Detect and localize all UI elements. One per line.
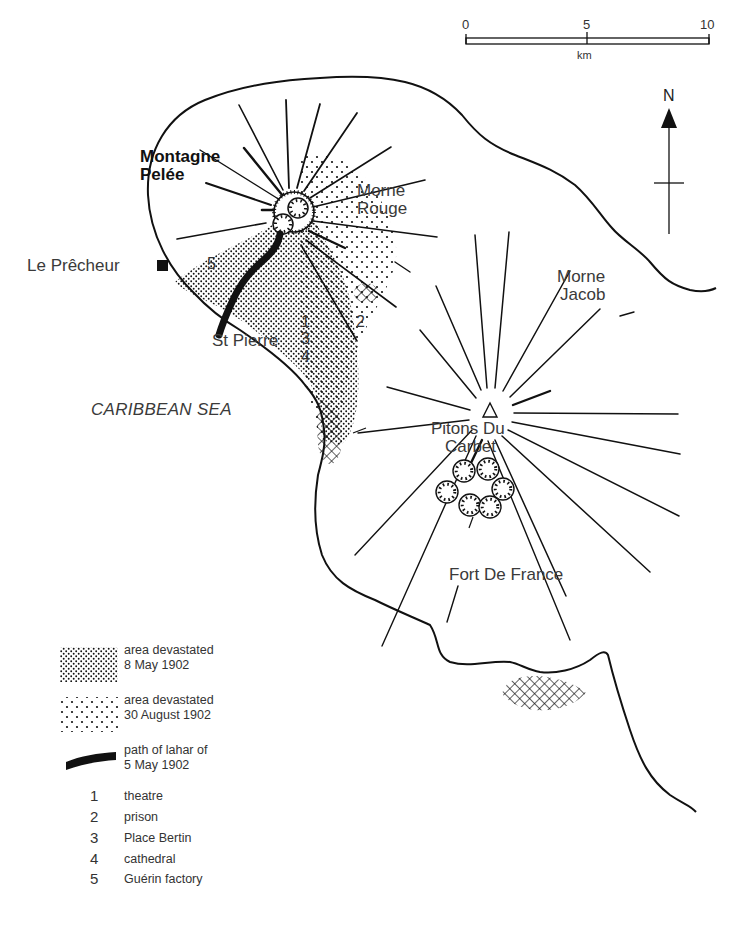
label-morne-rouge-line2: Rouge	[357, 200, 407, 218]
legend-lahar-line1: path of lahar of	[124, 744, 207, 758]
le-precheur-marker-icon	[157, 260, 168, 271]
label-morne-jacob-line1: Morne	[557, 268, 605, 286]
label-morne-jacob-line2: Jacob	[560, 286, 605, 304]
north-arrow-icon	[654, 108, 684, 234]
label-montagne-pelee-line1: Montagne	[140, 148, 220, 166]
legend-key-num-3: 3	[90, 829, 98, 846]
pitons-leader-line	[469, 517, 473, 528]
legend-key-num-1: 1	[90, 787, 98, 804]
legend-key-label-guerin-factory: Guérin factory	[124, 872, 203, 886]
legend-swatch-lahar-line	[66, 752, 116, 770]
legend-key-num-5: 5	[90, 870, 98, 887]
scale-bar	[466, 32, 709, 44]
legend-key-label-cathedral: cathedral	[124, 852, 175, 866]
map-marker-5-guerin-factory: 5	[207, 256, 216, 273]
scale-tick-10: 10	[700, 18, 714, 32]
scale-unit: km	[577, 50, 592, 62]
scale-tick-0: 0	[462, 18, 469, 32]
morne-jacob-summit-triangle-icon	[483, 403, 497, 417]
legend-swatch-dense-dots	[60, 647, 118, 682]
label-montagne-pelee-line2: Pelée	[140, 166, 184, 184]
legend-dense-dots-line1: area devastated	[124, 644, 214, 658]
legend-key-label-prison: prison	[124, 810, 158, 824]
legend-key-num-2: 2	[90, 808, 98, 825]
scale-tick-5: 5	[583, 18, 590, 32]
legend-key-label-theatre: theatre	[124, 789, 163, 803]
map-marker-1-theatre: 1	[301, 314, 310, 331]
legend-sparse-dots-line2: 30 August 1902	[124, 709, 211, 723]
legend-key-num-4: 4	[90, 850, 98, 867]
map-marker-4-cathedral: 4	[301, 349, 310, 366]
legend-lahar-line2: 5 May 1902	[124, 759, 189, 773]
label-st-pierre: St Pierre	[212, 332, 278, 350]
map-marker-2-prison: 2	[356, 314, 365, 331]
legend-sparse-dots-line1: area devastated	[124, 694, 214, 708]
label-pitons-du-carbet-line2: Carbet	[445, 438, 496, 456]
label-le-precheur: Le Prêcheur	[27, 257, 120, 275]
label-pitons-du-carbet-line1: Pitons Du	[431, 420, 505, 438]
label-fort-de-france: Fort De France	[449, 566, 563, 584]
map-canvas	[0, 0, 736, 943]
label-morne-rouge-line1: Morne	[357, 182, 405, 200]
map-marker-3-place-bertin: 3	[301, 331, 310, 348]
fort-de-france-town-hatch	[502, 676, 586, 710]
legend-dense-dots-line2: 8 May 1902	[124, 659, 189, 673]
legend-swatch-sparse-dots	[60, 697, 118, 732]
legend-key-label-place-bertin: Place Bertin	[124, 831, 191, 845]
morne-rouge-town-hatch	[354, 283, 378, 303]
map-of-martinique-pelee-1902: 0 5 10 km N Montagne Pelée Le Prêcheur M…	[0, 0, 736, 943]
label-caribbean-sea: CARIBBEAN SEA	[91, 401, 232, 419]
north-label: N	[663, 88, 675, 105]
